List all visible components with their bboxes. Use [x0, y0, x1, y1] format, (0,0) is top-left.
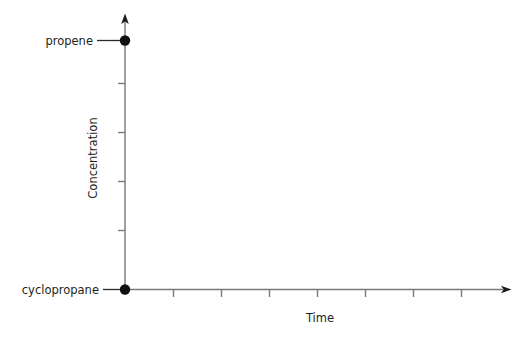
propene-label: propene [45, 34, 93, 48]
cyclopropane-data-point [120, 284, 130, 294]
concentration-vs-time-chart: propene cyclopropane Concentration Time [0, 0, 520, 337]
cyclopropane-label: cyclopropane [22, 283, 99, 297]
chart-canvas: propene cyclopropane Concentration Time [0, 0, 520, 337]
x-axis-title: Time [305, 311, 334, 325]
propene-data-point [120, 35, 130, 45]
y-axis-title: Concentration [86, 117, 100, 198]
